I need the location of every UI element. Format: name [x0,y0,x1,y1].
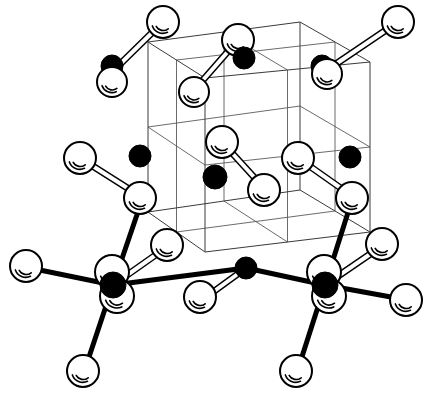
atom-open-top-left-lower [97,67,127,97]
atom-open-top-back-right [382,6,414,38]
atom-open-mid-bottom-arm [184,281,216,313]
crystal-structure-figure [0,0,428,398]
atom-open-left-bottom-arm [67,355,99,387]
atom-filled-front-mid-body [235,257,257,279]
atom-open-center-upper [206,126,238,158]
atom-filled-mid-left [129,145,151,167]
atom-filled-right-node [312,272,338,298]
atom-filled-front-mid [235,257,257,279]
crystal-structure-canvas [0,0,428,398]
atom-open-mid-right-lower [336,182,368,214]
atom-open-top-mid-lower [179,77,209,107]
atom-open-front-upper-right [366,228,398,260]
atom-open-mid-left [64,142,96,174]
atom-open-right-arm [390,284,422,316]
atom-filled-left-node [100,272,126,298]
atom-filled-mid-left-body [129,145,151,167]
atom-filled-mid-right [339,146,361,168]
atom-filled-mid-right-body [339,146,361,168]
atom-filled-center [203,165,227,189]
atom-filled-top-mid-body [233,47,255,69]
atom-open-top-back-left [147,6,179,38]
atom-open-right-bottom-arm [280,355,312,387]
atom-open-center-lower [248,174,280,206]
atom-filled-top-mid [233,47,255,69]
atom-filled-right-node-body [312,272,338,298]
atom-open-top-right-lower [312,59,342,89]
atom-filled-left-node-body [100,272,126,298]
atom-open-mid-left-lower [124,182,156,214]
atom-open-front-upper-left [151,229,183,261]
cell-face-top-gridline [177,42,336,60]
cell-face-bottom-gridline [177,211,336,232]
atom-filled-center-body [203,165,227,189]
unit-cell-wireframe [148,22,370,252]
atom-open-mid-right [282,142,314,174]
atom-open-left-arm [10,250,42,282]
